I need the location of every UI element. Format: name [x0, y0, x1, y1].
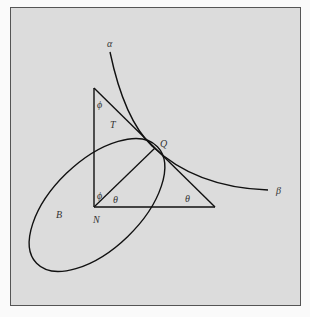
label-theta-left: θ: [113, 194, 118, 205]
label-N: N: [92, 214, 101, 225]
label-phi-bottom: ϕ: [97, 190, 102, 201]
label-alpha: α: [107, 38, 113, 49]
label-B: B: [56, 209, 62, 220]
label-phi-top: ϕ: [97, 99, 102, 110]
diagram-canvas: α β ϕ T Q ϕ θ θ N B: [0, 0, 310, 317]
segment-NQ: [94, 148, 155, 207]
label-T: T: [110, 119, 117, 130]
label-Q: Q: [160, 138, 168, 149]
label-beta: β: [275, 185, 281, 196]
label-theta-right: θ: [185, 193, 190, 204]
